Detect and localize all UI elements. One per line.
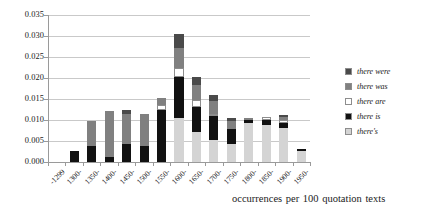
bar-stack [262,117,271,162]
legend-swatch [345,83,352,90]
y-tick-mark [44,99,48,100]
y-tick-label: 0.000 [0,158,44,166]
bar-segment [209,116,218,140]
stacked-bar-chart: 0.0350.0300.0250.0200.0150.0100.0050.000… [0,0,428,213]
x-tick-mark [48,162,49,166]
bar-segment [192,107,201,132]
legend-item[interactable]: there was [345,79,427,94]
bar-segment [140,114,149,146]
bar-segment [227,129,236,144]
bar-segment [174,77,183,118]
chart-caption: occurrences per 100 quotation texts [232,193,385,205]
legend-swatch [345,68,352,75]
y-tick-mark [44,78,48,79]
y-tick-mark [44,57,48,58]
bar-segment [174,68,183,77]
bar-stack [227,118,236,162]
bar-segment [227,121,236,129]
bar-stack [209,95,218,162]
bar-segment [192,85,201,100]
bar-stack [279,115,288,162]
bar-stack [174,34,183,162]
bar-segment [174,48,183,68]
y-tick-mark [44,36,48,37]
legend-label: there were [357,67,390,76]
bars-layer [48,15,310,162]
y-tick-mark [44,120,48,121]
bar-stack [244,118,253,162]
legend-label: there's [357,127,378,136]
legend-label: there are [357,97,386,106]
legend-swatch [345,98,352,105]
bar-segment [105,111,114,157]
legend-swatch [345,113,352,120]
y-tick-label: 0.035 [0,11,44,19]
legend-item[interactable]: there is [345,109,427,124]
bar-segment [87,121,96,146]
y-axis-labels: 0.0350.0300.0250.0200.0150.0100.0050.000 [0,0,44,213]
bar-stack [105,111,114,162]
bar-segment [157,98,166,105]
legend-item[interactable]: there are [345,94,427,109]
legend-swatch [345,128,352,135]
bar-stack [192,77,201,162]
y-tick-mark [44,141,48,142]
bar-segment [192,77,201,85]
legend-label: there was [357,82,388,91]
y-tick-label: 0.020 [0,74,44,82]
y-tick-label: 0.010 [0,116,44,124]
y-tick-mark [44,15,48,16]
bar-segment [122,114,131,144]
bar-segment [174,34,183,48]
bar-segment [209,101,218,114]
bar-stack [157,98,166,162]
y-tick-label: 0.030 [0,32,44,40]
y-tick-mark [44,162,48,163]
legend-label: there is [357,112,380,121]
legend: there werethere wasthere arethere isther… [345,64,427,139]
y-tick-label: 0.025 [0,53,44,61]
y-tick-label: 0.015 [0,95,44,103]
legend-item[interactable]: there's [345,124,427,139]
bar-segment [157,110,166,163]
bar-stack [140,114,149,162]
bar-stack [122,110,131,162]
legend-item[interactable]: there were [345,64,427,79]
y-tick-label: 0.005 [0,137,44,145]
